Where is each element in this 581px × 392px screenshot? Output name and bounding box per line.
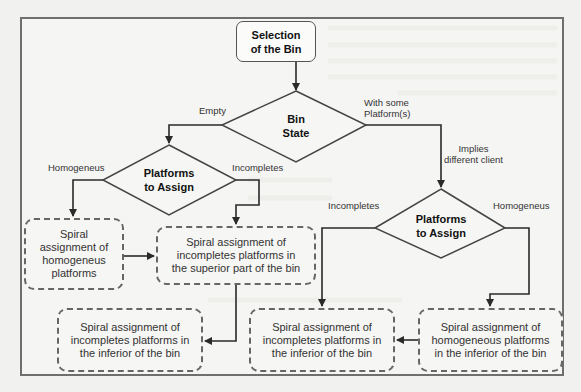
- implies-line2: different client: [444, 154, 503, 165]
- text-line: the inferior of the bin: [272, 347, 372, 360]
- platforms-right-line1: Platforms: [396, 212, 486, 226]
- process-spiral-incompletes-inferior-left: Spiral assignment of incompletes platfor…: [57, 308, 203, 372]
- text-line: incompletes platforms in: [263, 334, 382, 347]
- edge-homogeneus-left: [73, 180, 103, 216]
- bin-state-line1: Bin: [266, 112, 326, 126]
- text-line: Spiral assignment of: [441, 321, 541, 334]
- with-some-line1: With some: [364, 97, 410, 108]
- platforms-right-line2: to Assign: [396, 226, 486, 240]
- text-line: homogeneous platforms: [431, 334, 549, 347]
- decision-platforms-left-label: Platforms to Assign: [124, 166, 214, 194]
- process-spiral-homogeneous-inferior: Spiral assignment of homogeneous platfor…: [418, 308, 563, 372]
- edge-label-empty: Empty: [199, 105, 226, 116]
- process-spiral-homogeneous: Spiral assignment of homogeneus platform…: [24, 218, 124, 290]
- decision-platforms-right-label: Platforms to Assign: [396, 212, 486, 240]
- edge-incompletes-right: [322, 228, 375, 306]
- platforms-left-line1: Platforms: [124, 166, 214, 180]
- text-line: Spiral assignment of: [186, 236, 286, 249]
- edge-label-with-some-platforms: With some Platform(s): [364, 97, 410, 119]
- edge-homogeneus-right: [490, 228, 529, 306]
- edge-label-incompletes-left: Incompletes: [232, 162, 283, 173]
- edge-superior-to-inferior: [205, 285, 236, 341]
- text-line: platforms: [51, 267, 96, 280]
- process-spiral-incompletes-superior: Spiral assignment of incompletes platfor…: [156, 226, 316, 285]
- edge-label-implies-different-client: Implies different client: [444, 143, 503, 165]
- bin-state-line2: State: [266, 126, 326, 140]
- start-node-selection-of-bin: Selection of the Bin: [236, 21, 316, 62]
- text-line: Spiral assignment of: [80, 321, 180, 334]
- edge-label-homogeneus-right: Homogeneus: [493, 200, 550, 211]
- platforms-left-line2: to Assign: [124, 180, 214, 194]
- start-node-line2: of the Bin: [251, 42, 302, 56]
- text-line: Spiral: [60, 228, 88, 241]
- edge-label-incompletes-right: Incompletes: [328, 200, 379, 211]
- edge-label-homogeneus-left: Homogeneus: [48, 162, 105, 173]
- start-node-line1: Selection: [252, 28, 301, 42]
- text-line: incompletes platforms in: [177, 249, 296, 262]
- text-line: Spiral assignment of: [272, 321, 372, 334]
- edge-incompletes-left: [236, 180, 259, 224]
- decision-bin-state-label: Bin State: [266, 112, 326, 140]
- text-line: in the inferior of the bin: [435, 347, 547, 360]
- process-spiral-incompletes-inferior-mid: Spiral assignment of incompletes platfor…: [249, 308, 395, 372]
- edge-with-some-platforms: [366, 125, 441, 187]
- with-some-line2: Platform(s): [364, 108, 410, 119]
- text-line: the superior part of the bin: [172, 262, 300, 275]
- implies-line1: Implies: [444, 143, 503, 154]
- text-line: assignment of: [40, 241, 108, 254]
- text-line: homogeneus: [42, 254, 106, 267]
- edge-empty: [169, 125, 222, 143]
- text-line: incompletes platforms in: [71, 334, 190, 347]
- text-line: the inferior of the bin: [80, 347, 180, 360]
